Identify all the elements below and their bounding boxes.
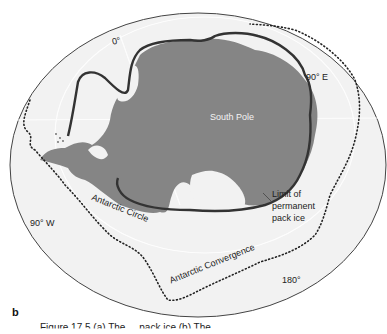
- label-pack-ice-line3: pack ice: [272, 212, 315, 224]
- label-south-pole: South Pole: [210, 112, 254, 122]
- label-pack-ice-line2: permanent: [272, 200, 315, 212]
- label-0-degrees: 0°: [111, 35, 122, 47]
- label-pack-ice-line1: Limit of: [272, 188, 315, 200]
- panel-label: b: [12, 306, 19, 318]
- label-90-east: 90° E: [306, 72, 328, 82]
- label-180-degrees: 180°: [282, 275, 301, 285]
- label-pack-ice: Limit of permanent pack ice: [272, 188, 315, 224]
- label-90-west: 90° W: [30, 218, 55, 228]
- antarctica-map: [0, 0, 387, 334]
